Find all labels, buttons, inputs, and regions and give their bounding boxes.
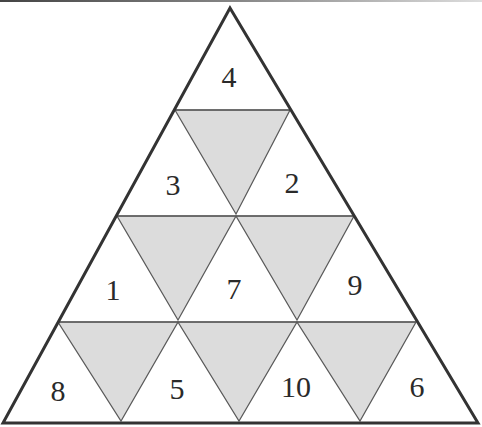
shaded-triangle-row3-right <box>236 216 354 320</box>
shaded-triangle-row4-left <box>58 322 178 421</box>
cell-r3-p3: 9 <box>348 268 363 301</box>
cell-r3-p1: 1 <box>106 273 121 306</box>
cell-r2-p1: 3 <box>166 168 181 201</box>
cell-r4-p3: 10 <box>281 370 311 403</box>
shaded-triangle-row4-middle <box>178 322 297 421</box>
shaded-triangle-row2 <box>175 110 290 214</box>
cell-r1-p1: 4 <box>222 60 237 93</box>
triangle-number-puzzle: 4 3 2 1 7 9 8 5 10 6 <box>0 0 482 427</box>
cell-r4-p2: 5 <box>170 372 185 405</box>
cell-r4-p1: 8 <box>51 374 66 407</box>
shaded-triangles <box>58 110 416 421</box>
shaded-triangle-row4-right <box>297 322 416 421</box>
cell-r3-p2: 7 <box>227 272 242 305</box>
cell-r4-p4: 6 <box>410 370 425 403</box>
shaded-triangle-row3-left <box>117 216 236 320</box>
top-border-rule <box>0 0 482 2</box>
cell-r2-p2: 2 <box>285 166 300 199</box>
